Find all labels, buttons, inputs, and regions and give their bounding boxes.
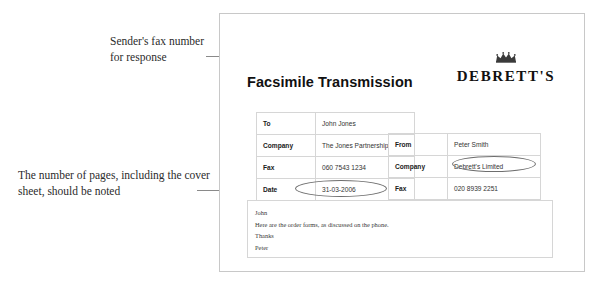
field-value-sender-fax: 020 8939 2251 (448, 178, 541, 200)
message-line: John (255, 207, 545, 219)
table-row: Fax 020 8939 2251 (389, 178, 541, 200)
annotation-pages: The number of pages, including the cover… (18, 167, 213, 199)
field-label-to: To (257, 113, 316, 135)
field-value-from: Peter Smith (448, 134, 541, 156)
message-line: Thanks (255, 230, 545, 242)
crown-icon (446, 50, 566, 66)
fax-cover-sheet: DEBRETT'S Facsimile Transmission To John… (219, 13, 585, 272)
message-line: Here are the order forms, as discussed o… (255, 219, 545, 231)
field-label-sender-fax: Fax (389, 178, 448, 200)
brand-logo: DEBRETT'S (446, 50, 566, 85)
field-label-company: Company (257, 135, 316, 157)
field-value-to: John Jones (316, 113, 415, 135)
field-label-from: From (389, 134, 448, 156)
table-row: To John Jones (257, 113, 415, 135)
table-row: From Peter Smith (389, 134, 541, 156)
table-row: Company Debrett's Limited (389, 156, 541, 178)
field-value-sender-company: Debrett's Limited (448, 156, 541, 178)
annotation-sender-fax: Sender's fax number for response (110, 33, 205, 65)
field-label-date: Date (257, 179, 316, 201)
message-body: John Here are the order forms, as discus… (247, 200, 553, 258)
field-label-fax: Fax (257, 157, 316, 179)
field-label-sender-company: Company (389, 156, 448, 178)
page-title: Facsimile Transmission (247, 74, 413, 90)
brand-wordmark: DEBRETT'S (457, 68, 556, 84)
message-line: Peter (255, 242, 545, 254)
